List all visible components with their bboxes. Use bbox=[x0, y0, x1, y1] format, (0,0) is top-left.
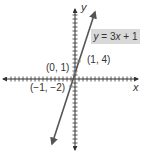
x-axis-label: x bbox=[133, 82, 139, 93]
point-1-4 bbox=[77, 59, 80, 62]
eq-tail: + 1 bbox=[121, 31, 138, 42]
point-label-0-1: (0, 1) bbox=[46, 63, 69, 73]
eq-mid: = 3 bbox=[99, 31, 116, 42]
point-0-1 bbox=[73, 71, 76, 74]
y-axis-label: y bbox=[81, 2, 87, 13]
point-m1-m2 bbox=[69, 84, 72, 87]
coordinate-plane bbox=[0, 0, 143, 157]
point-label-m1-m2: (−1, −2) bbox=[30, 83, 65, 93]
point-label-1-4: (1, 4) bbox=[87, 55, 110, 65]
equation-label: y = 3x + 1 bbox=[91, 29, 140, 44]
graph-line bbox=[52, 12, 95, 144]
